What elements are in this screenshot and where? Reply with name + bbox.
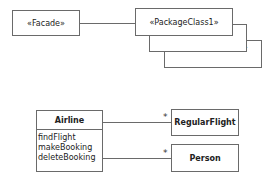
airline-regularflight-association	[103, 122, 171, 123]
regularflight-multiplicity: *	[163, 113, 168, 122]
operation-make-booking: makeBooking	[38, 143, 102, 153]
airline-class-name: Airline	[37, 111, 102, 130]
airline-class-box[interactable]: Airline findFlight makeBooking deleteBoo…	[36, 110, 103, 172]
regularflight-class-box[interactable]: RegularFlight	[171, 109, 239, 136]
person-class-box[interactable]: Person	[171, 144, 239, 172]
airline-person-association	[103, 158, 171, 159]
facade-box[interactable]: «Facade»	[12, 10, 80, 36]
regularflight-label: RegularFlight	[174, 118, 235, 127]
airline-operations: findFlight makeBooking deleteBooking	[37, 130, 102, 163]
facade-label: «Facade»	[27, 19, 65, 28]
operation-find-flight: findFlight	[38, 133, 102, 143]
package-class-1-label: «PackageClass1»	[149, 18, 218, 27]
person-label: Person	[189, 154, 220, 163]
facade-association-line	[80, 23, 136, 24]
person-multiplicity: *	[163, 149, 168, 158]
operation-delete-booking: deleteBooking	[38, 153, 102, 163]
package-class-1-box[interactable]: «PackageClass1»	[135, 8, 233, 36]
